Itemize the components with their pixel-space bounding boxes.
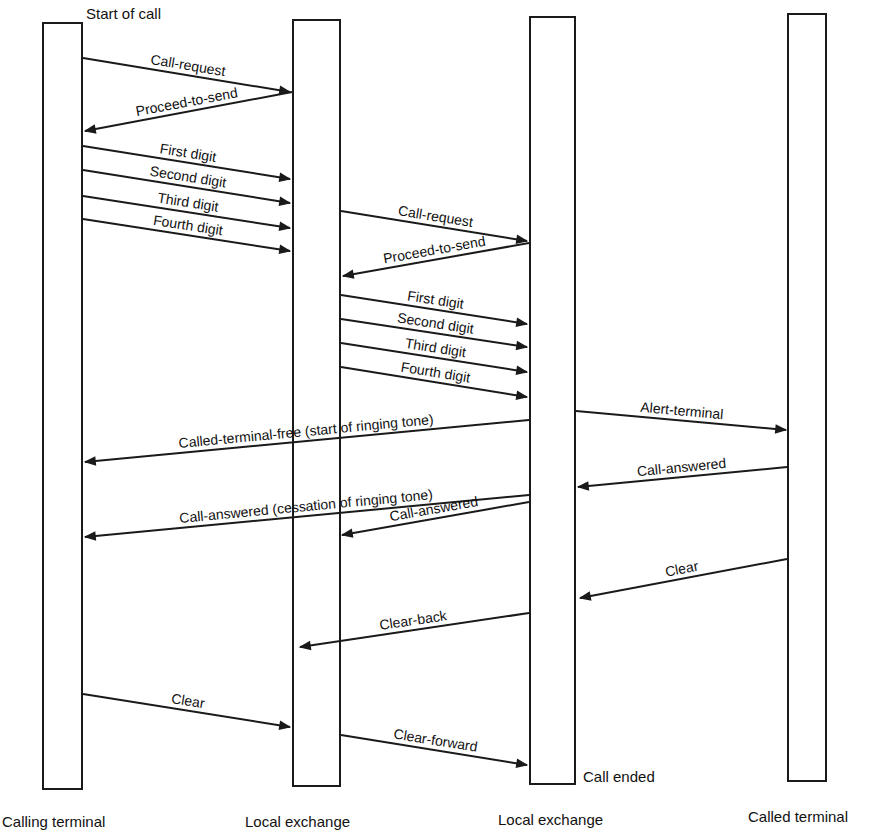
message-label: Proceed-to-send [134,84,239,119]
message-label: Third digit [156,190,219,215]
message-proceed-to-send: Proceed-to-send [343,233,529,276]
lifeline-captions: Calling terminal Local exchange Local ex… [2,808,848,830]
start-of-call-annotation: Start of call [86,5,161,22]
lifeline-local-exchange-a [293,20,340,786]
caption-calling-terminal: Calling terminal [2,813,105,830]
message-call-request: Call-request [83,51,290,92]
message-label: First digit [406,287,465,312]
call-ended-annotation: Call ended [583,768,655,785]
message-fourth-digit: Fourth digit [341,359,527,397]
message-clear-forward: Clear-forward [341,725,527,765]
sequence-diagram: Calling terminal Local exchange Local ex… [0,0,871,838]
caption-called-terminal: Called terminal [748,808,848,825]
message-alert-terminal: Alert-terminal [576,399,786,430]
message-clear: Clear [580,558,787,598]
message-label: Proceed-to-send [382,233,487,267]
message-call-answered: Call-answered [578,455,787,487]
message-fourth-digit: Fourth digit [83,212,290,251]
lifeline-boxes [43,14,826,789]
message-label: Clear-back [378,607,448,633]
caption-local-exchange-a: Local exchange [245,813,350,830]
message-call-request: Call-request [341,202,527,241]
message-clear: Clear [83,690,290,727]
message-label: Call-answered [636,455,727,479]
lifeline-local-exchange-b [530,17,575,784]
lifeline-calling-terminal [43,23,82,789]
message-proceed-to-send: Proceed-to-send [85,84,292,131]
message-arrows: Call-requestProceed-to-sendFirst digitSe… [83,51,787,765]
message-label: Third digit [404,335,467,360]
caption-local-exchange-b: Local exchange [498,811,603,828]
message-label: First digit [159,140,218,165]
lifeline-called-terminal [788,14,826,781]
